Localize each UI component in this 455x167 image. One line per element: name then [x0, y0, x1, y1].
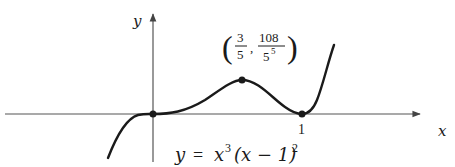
graph-figure: y x 1 ( 3 5 , 108 5 5 ) y = x 3 (x − 1) … [0, 0, 455, 167]
x-tick-label-1: 1 [298, 122, 305, 137]
equation-label: y = x 3 (x − 1) 2 [174, 141, 298, 165]
eq-x: x [214, 144, 224, 165]
x-axis-label: x [438, 122, 447, 140]
max-point-annotation: ( 3 5 , 108 5 5 ) [222, 29, 298, 65]
eq-exp2: 2 [292, 141, 298, 155]
eq-factor: (x − 1) [234, 144, 296, 165]
comma: , [250, 40, 253, 55]
x-den: 5 [237, 47, 244, 62]
eq-lhs: y [174, 144, 186, 165]
root-point [299, 111, 306, 118]
local-max-point [239, 77, 246, 84]
y-axis-label: y [132, 12, 142, 30]
eq-equals: = [193, 145, 203, 165]
function-curve [108, 45, 334, 158]
close-paren: ) [287, 29, 298, 65]
origin-point [150, 111, 157, 118]
y-num: 108 [259, 30, 279, 45]
x-num: 3 [237, 30, 244, 45]
y-den-base: 5 [263, 49, 270, 64]
y-den-exp: 5 [271, 46, 276, 56]
open-paren: ( [222, 29, 233, 65]
eq-exp1: 3 [225, 141, 231, 155]
